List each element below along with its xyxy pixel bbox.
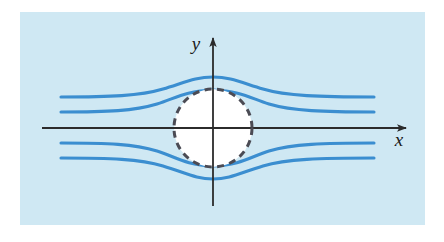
flow-past-cylinder-figure: x y xyxy=(0,0,444,242)
figure-container: x y xyxy=(0,0,444,242)
x-axis-label: x xyxy=(394,129,404,150)
y-axis-label: y xyxy=(190,33,201,54)
